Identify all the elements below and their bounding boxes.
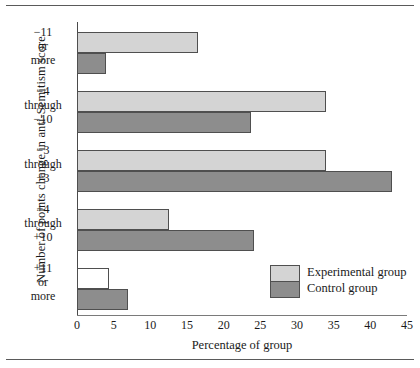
category-label: −4through−10 bbox=[16, 84, 70, 126]
bar-control bbox=[77, 53, 106, 74]
bar-experimental bbox=[77, 209, 169, 230]
category-label: −3through+3 bbox=[16, 143, 70, 185]
x-tick-label: 40 bbox=[364, 318, 376, 333]
category-label-line: +4 bbox=[16, 202, 70, 216]
chart-figure: Number of points change in anti-Semitism… bbox=[0, 0, 420, 368]
x-tick-label: 45 bbox=[401, 318, 413, 333]
bottom-rule bbox=[6, 359, 414, 360]
x-tick-label: 25 bbox=[254, 318, 266, 333]
legend-swatch bbox=[271, 266, 299, 281]
bar-group: −4through−10 bbox=[77, 91, 407, 133]
category-label-line: +3 bbox=[16, 171, 70, 185]
category-label-line: or bbox=[16, 39, 70, 53]
x-tick-label: 35 bbox=[328, 318, 340, 333]
category-label-line: +10 bbox=[16, 230, 70, 244]
category-label-line: through bbox=[16, 98, 70, 112]
category-label-line: +11 bbox=[16, 261, 70, 275]
legend-label: Control group bbox=[307, 281, 407, 297]
category-label-line: −3 bbox=[16, 143, 70, 157]
bar-control bbox=[77, 289, 128, 310]
category-label: +11ormore bbox=[16, 261, 70, 303]
category-label-line: −10 bbox=[16, 112, 70, 126]
category-label-line: −11 bbox=[16, 25, 70, 39]
category-label: −11ormore bbox=[16, 25, 70, 67]
bar-experimental bbox=[77, 91, 326, 112]
category-label-line: more bbox=[16, 53, 70, 67]
x-axis-ticks: 051015202530354045 bbox=[77, 318, 407, 334]
category-label-line: −4 bbox=[16, 84, 70, 98]
category-label: +4through+10 bbox=[16, 202, 70, 244]
x-tick-label: 5 bbox=[111, 318, 117, 333]
bar-group: −11ormore bbox=[77, 32, 407, 74]
category-label-line: through bbox=[16, 157, 70, 171]
x-tick-label: 10 bbox=[144, 318, 156, 333]
bar-control bbox=[77, 171, 392, 192]
x-axis-line bbox=[77, 315, 407, 316]
bar-group: −3through+3 bbox=[77, 150, 407, 192]
category-label-line: or bbox=[16, 275, 70, 289]
legend-swatch-stack bbox=[270, 265, 300, 298]
x-axis-label: Percentage of group bbox=[77, 338, 407, 353]
x-tick-label: 30 bbox=[291, 318, 303, 333]
legend: Experimental groupControl group bbox=[270, 265, 407, 298]
bar-group: +4through+10 bbox=[77, 209, 407, 251]
x-tick-label: 20 bbox=[218, 318, 230, 333]
x-tick-label: 0 bbox=[74, 318, 80, 333]
bar-experimental bbox=[77, 268, 109, 289]
bar-control bbox=[77, 230, 254, 251]
category-label-line: more bbox=[16, 289, 70, 303]
bar-experimental bbox=[77, 32, 198, 53]
top-rule bbox=[6, 5, 414, 6]
legend-label-stack: Experimental groupControl group bbox=[307, 265, 407, 296]
bar-experimental bbox=[77, 150, 326, 171]
category-label-line: through bbox=[16, 216, 70, 230]
legend-label: Experimental group bbox=[307, 265, 407, 281]
x-tick-label: 15 bbox=[181, 318, 193, 333]
legend-swatch bbox=[271, 281, 299, 297]
bar-control bbox=[77, 112, 251, 133]
